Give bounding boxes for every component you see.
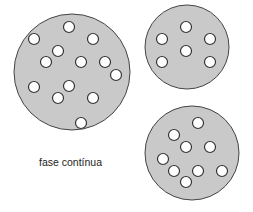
droplet xyxy=(100,57,111,68)
droplet xyxy=(76,57,87,68)
droplet xyxy=(217,166,228,177)
droplet xyxy=(193,166,204,177)
droplet xyxy=(181,46,192,57)
droplet xyxy=(41,57,52,68)
droplet xyxy=(64,81,75,92)
droplet xyxy=(205,142,216,153)
continuous-phase-label: fase contínua xyxy=(39,156,102,168)
droplet xyxy=(181,22,192,33)
droplet xyxy=(88,93,99,104)
droplet xyxy=(205,34,216,45)
droplet xyxy=(111,70,122,81)
droplet xyxy=(29,82,40,93)
droplet xyxy=(76,118,87,129)
top-right-particle xyxy=(145,5,229,89)
droplet xyxy=(181,142,192,153)
particle-body xyxy=(145,106,239,200)
droplet xyxy=(169,130,180,141)
droplet xyxy=(29,34,40,45)
droplet xyxy=(193,118,204,129)
droplet xyxy=(53,46,64,57)
bottom-right-particle xyxy=(145,106,239,200)
droplet xyxy=(169,166,180,177)
droplet xyxy=(157,57,168,68)
large-particle xyxy=(14,14,130,130)
droplet xyxy=(157,34,168,45)
droplet xyxy=(53,93,64,104)
droplet xyxy=(205,57,216,68)
emulsion-diagram xyxy=(0,0,253,212)
droplet xyxy=(158,154,169,165)
droplet xyxy=(88,34,99,45)
droplet xyxy=(181,177,192,188)
droplet xyxy=(64,22,75,33)
